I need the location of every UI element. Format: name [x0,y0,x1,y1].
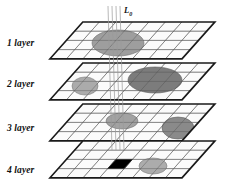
layer-label-1: 1 layer [7,38,34,48]
inclusion-l2-center [128,67,182,93]
inclusion-l2-left [72,77,98,95]
diagram-canvas [0,0,240,185]
layer-shapes-1 [92,30,144,56]
layer-label-4: 4 layer [7,165,34,175]
beam-label: L0 [124,5,132,17]
layer-label-3: 3 layer [7,123,34,133]
layer-plane-1 [50,22,215,59]
layers-group [50,22,215,178]
layer-plane-2 [50,63,215,100]
inclusion-l3-right [162,117,194,139]
layered-grid-diagram: 1 layer 2 layer 3 layer 4 layer L0 [0,0,240,185]
layer-plane-4 [50,141,215,178]
beam-label-subscript: 0 [129,11,132,17]
layer-label-2: 2 layer [7,79,34,89]
layer-plane-3 [50,104,215,141]
inclusion-l1-center [92,30,144,56]
